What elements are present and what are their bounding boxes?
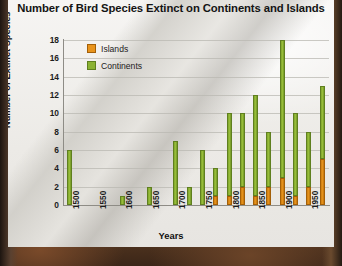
bar-segment-continents <box>213 168 218 196</box>
y-tick-label: 2 <box>33 182 59 192</box>
bar-segment-islands <box>266 187 271 205</box>
bar-segment-continents <box>280 40 285 178</box>
bar-segment-continents <box>306 132 311 187</box>
chart-title: Number of Bird Species Extinct on Contin… <box>8 2 334 14</box>
y-tick-label: 14 <box>33 72 59 82</box>
x-tick-label: 1650 <box>152 191 161 209</box>
bar-segment-continents <box>253 95 258 196</box>
bar <box>227 113 232 205</box>
bar <box>320 86 325 205</box>
bar-segment-continents <box>320 86 325 159</box>
y-tick-label: 12 <box>33 90 59 100</box>
y-tick-label: 0 <box>33 200 59 210</box>
bar <box>187 187 192 205</box>
bar <box>213 168 218 205</box>
bar <box>253 95 258 205</box>
y-tick-label: 4 <box>33 163 59 173</box>
bar-segment-continents <box>240 113 245 186</box>
y-tick-label: 10 <box>33 108 59 118</box>
x-tick-label: 1800 <box>232 191 241 209</box>
bar-segment-islands <box>227 196 232 205</box>
bar <box>266 132 271 205</box>
y-tick-label: 8 <box>33 127 59 137</box>
x-axis-label: Years <box>8 230 334 241</box>
chart-panel: Number of Bird Species Extinct on Contin… <box>8 0 334 247</box>
y-tick-label: 6 <box>33 145 59 155</box>
x-tick-label: 1950 <box>311 191 320 209</box>
bar <box>280 40 285 205</box>
x-tick-label: 1900 <box>285 191 294 209</box>
x-tick-label: 1850 <box>258 191 267 209</box>
y-axis-label: Number of Extinct Species <box>8 12 12 128</box>
x-tick-label: 1700 <box>178 191 187 209</box>
x-tick-label: 1750 <box>205 191 214 209</box>
y-tick-label: 18 <box>33 35 59 45</box>
plot-area <box>63 40 329 205</box>
bar-segment-islands <box>320 159 325 205</box>
bar-segment-continents <box>266 132 271 187</box>
x-tick-label: 1550 <box>99 191 108 209</box>
y-tick-label: 16 <box>33 53 59 63</box>
bar-segment-continents <box>293 113 298 196</box>
bar-segment-islands <box>213 196 218 205</box>
x-tick-label: 1600 <box>125 191 134 209</box>
bar-segment-continents <box>227 113 232 196</box>
x-tick-label: 1500 <box>72 191 81 209</box>
bar-segment-continents <box>187 187 192 205</box>
